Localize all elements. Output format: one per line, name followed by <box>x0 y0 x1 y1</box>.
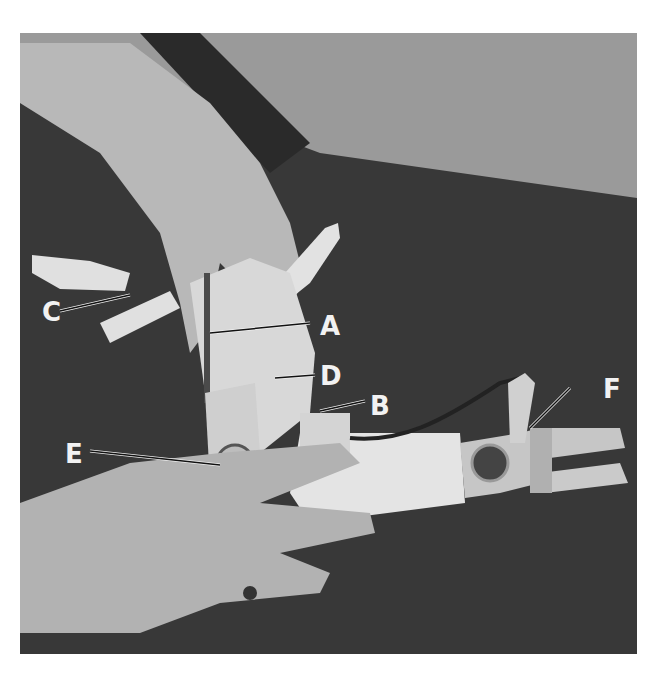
callout-label-a: A <box>320 311 340 341</box>
splint-photograph: C A D B E F <box>20 33 637 654</box>
wrist-watch <box>472 445 508 481</box>
rod <box>204 273 210 403</box>
ring <box>243 586 257 600</box>
callout-label-d: D <box>320 361 342 391</box>
callout-label-b: B <box>370 391 390 421</box>
callout-label-c: C <box>42 297 61 327</box>
finger-strap <box>530 428 552 493</box>
callout-label-f: F <box>603 374 621 404</box>
callout-label-e: E <box>65 439 83 469</box>
